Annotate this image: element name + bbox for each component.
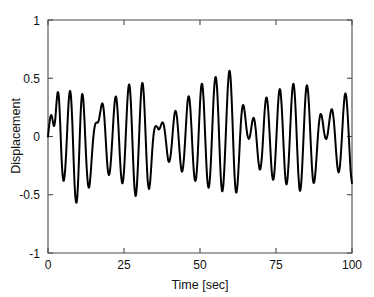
y-tick-label: 1 (33, 14, 40, 28)
x-tick-label: 50 (193, 258, 207, 272)
y-axis-title: Displacement (9, 98, 23, 174)
x-tick-label: 100 (342, 258, 362, 272)
x-axis-title: Time [sec] (171, 278, 228, 292)
x-tick-label: 75 (269, 258, 283, 272)
y-tick-label: -1 (29, 247, 40, 261)
y-tick-label: 0.5 (23, 72, 40, 86)
displacement-time-chart: 0255075100 -1-0.500.51 Time [sec] Displa… (0, 0, 374, 297)
figure-canvas: 0255075100 -1-0.500.51 Time [sec] Displa… (0, 0, 374, 297)
x-tick-label: 25 (117, 258, 131, 272)
x-axis-tick-labels: 0255075100 (45, 258, 363, 272)
y-tick-label: -0.5 (19, 188, 40, 202)
y-tick-label: 0 (33, 130, 40, 144)
x-tick-label: 0 (45, 258, 52, 272)
